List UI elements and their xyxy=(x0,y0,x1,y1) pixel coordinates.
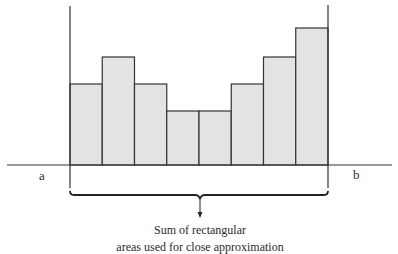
rectangle-2 xyxy=(102,57,134,165)
caption-line-1: Sum of rectangular xyxy=(154,223,246,237)
rectangles xyxy=(70,28,328,165)
caption-line-2: areas used for close approximation xyxy=(116,240,283,254)
rectangle-8 xyxy=(296,28,328,165)
rectangle-3 xyxy=(135,84,167,165)
riemann-sum-diagram: a b Sum of rectangular areas used for cl… xyxy=(0,0,398,254)
rectangle-7 xyxy=(264,57,296,165)
label-b: b xyxy=(353,167,360,182)
rectangle-4 xyxy=(167,111,199,165)
arrow-head-icon xyxy=(198,212,203,218)
rectangle-1 xyxy=(70,84,102,165)
label-a: a xyxy=(39,168,45,183)
rectangle-6 xyxy=(231,84,263,165)
rectangle-5 xyxy=(199,111,231,165)
curly-brace xyxy=(70,191,328,199)
